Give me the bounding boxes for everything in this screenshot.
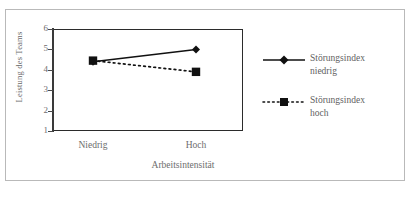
y-tick-6: [48, 29, 53, 30]
y-tick-label-4: 4: [26, 65, 48, 74]
y-tick-5: [48, 49, 53, 50]
y-tick-label-6: 6: [26, 24, 48, 33]
y-tick-labels: 6 5 4 3 2 1: [22, 0, 48, 198]
y-tick-2: [48, 111, 53, 112]
y-axis-title: Leistung des Teams: [14, 12, 24, 122]
y-tick-label-2: 2: [26, 106, 48, 115]
legend-item-stoerungsindex-hoch: Störungsindex hoch: [262, 94, 412, 120]
legend: Störungsindex niedrig Störungsindex hoch: [262, 52, 412, 136]
y-tick-4: [48, 70, 53, 71]
legend-label-line1: Störungsindex: [310, 94, 412, 107]
x-tick-label-niedrig: Niedrig: [58, 140, 128, 150]
y-tick-label-3: 3: [26, 85, 48, 94]
plot-frame: [53, 29, 243, 131]
chart-screenshot: 6 5 4 3 2 1 Leistung des Teams Niedrig H…: [0, 0, 414, 198]
legend-key-solid-diamond-icon: [262, 54, 306, 66]
y-tick-1: [48, 131, 53, 132]
x-axis-title: Arbeitsintensität: [113, 160, 253, 170]
legend-key-dotted-square-icon: [262, 96, 306, 108]
y-tick-3: [48, 90, 53, 91]
legend-item-stoerungsindex-niedrig: Störungsindex niedrig: [262, 52, 412, 78]
legend-label-line2: niedrig: [310, 65, 412, 78]
legend-label-line2: hoch: [310, 107, 412, 120]
y-tick-label-5: 5: [26, 44, 48, 53]
x-tick-label-hoch: Hoch: [161, 140, 231, 150]
legend-label-line1: Störungsindex: [310, 52, 412, 65]
y-tick-label-1: 1: [26, 126, 48, 135]
y-axis-spine: [52, 28, 54, 132]
